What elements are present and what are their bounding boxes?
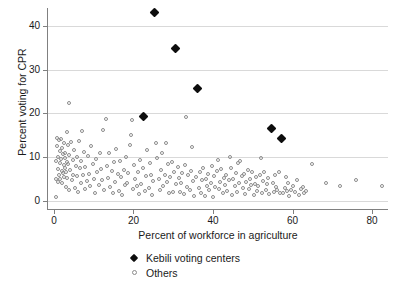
data-point-other: [160, 151, 164, 155]
data-point-other: [380, 184, 384, 188]
data-point-other: [191, 179, 195, 183]
x-tick-label: 60: [273, 216, 313, 226]
data-point-other: [197, 186, 201, 190]
data-point-other: [256, 184, 260, 188]
data-point-other: [65, 130, 69, 134]
scatter-plot-figure: 010203040 020406080 Percent voting for C…: [0, 0, 396, 285]
data-point-other: [70, 178, 74, 182]
data-point-other: [114, 147, 118, 151]
data-point-other: [198, 170, 202, 174]
data-point-other: [104, 117, 108, 121]
data-point-other: [154, 141, 158, 145]
data-point-other: [65, 176, 69, 180]
data-point-other: [91, 162, 95, 166]
data-point-other: [215, 169, 219, 173]
data-point-other: [58, 161, 62, 165]
data-point-other: [59, 137, 63, 141]
x-tick: [372, 209, 373, 214]
data-point-other: [72, 148, 76, 152]
data-point-other: [93, 191, 97, 195]
data-point-other: [157, 177, 161, 181]
data-point-other: [108, 185, 112, 189]
open-circle-icon: [128, 270, 140, 275]
data-point-other: [126, 171, 130, 175]
data-point-other: [150, 193, 154, 197]
data-point-other: [186, 173, 190, 177]
data-point-other: [216, 158, 220, 162]
data-point-other: [149, 173, 153, 177]
data-point-other: [284, 175, 288, 179]
data-point-other: [113, 180, 117, 184]
data-point-other: [267, 192, 271, 196]
data-point-kebili: [150, 7, 160, 17]
data-point-other: [118, 159, 122, 163]
gridline: [48, 113, 388, 114]
data-point-other: [135, 184, 139, 188]
data-point-other: [151, 179, 155, 183]
data-point-other: [227, 178, 231, 182]
data-point-other: [242, 172, 246, 176]
data-point-other: [244, 180, 248, 184]
data-point-other: [168, 175, 172, 179]
legend-label-others: Others: [146, 267, 178, 279]
x-tick-label: 40: [193, 216, 233, 226]
data-point-other: [211, 195, 215, 199]
data-point-other: [174, 182, 178, 186]
data-point-other: [192, 194, 196, 198]
data-point-other: [76, 190, 80, 194]
data-point-other: [172, 170, 176, 174]
data-point-other: [273, 173, 277, 177]
data-point-other: [234, 171, 238, 175]
x-tick-label: 20: [113, 216, 153, 226]
data-point-other: [225, 189, 229, 193]
data-point-other: [137, 192, 141, 196]
data-point-other: [71, 158, 75, 162]
data-point-other: [92, 177, 96, 181]
data-point-other: [119, 175, 123, 179]
data-point-other: [262, 170, 266, 174]
data-point-other: [229, 166, 233, 170]
data-point-other: [165, 180, 169, 184]
data-point-other: [98, 151, 102, 155]
data-point-other: [190, 145, 194, 149]
data-point-other: [138, 158, 142, 162]
data-point-other: [338, 184, 342, 188]
data-point-other: [188, 188, 192, 192]
data-point-other: [79, 159, 83, 163]
data-point-other: [129, 133, 133, 137]
data-point-other: [148, 161, 152, 165]
x-tick: [213, 209, 214, 214]
data-point-kebili: [266, 123, 276, 133]
data-point-other: [203, 194, 207, 198]
data-point-other: [112, 160, 116, 164]
x-axis-line: [47, 209, 388, 210]
data-point-other: [189, 169, 193, 173]
data-point-other: [147, 186, 151, 190]
data-point-other: [87, 172, 91, 176]
data-point-other: [130, 118, 134, 122]
data-point-kebili: [192, 83, 202, 93]
data-point-other: [86, 154, 90, 158]
data-point-other: [66, 162, 70, 166]
data-point-other: [89, 144, 93, 148]
data-point-other: [56, 167, 60, 171]
data-point-other: [110, 169, 114, 173]
data-point-other: [209, 181, 213, 185]
data-point-other: [247, 187, 251, 191]
data-point-other: [80, 129, 84, 133]
data-point-other: [252, 193, 256, 197]
plot-area: [48, 8, 388, 208]
data-point-other: [184, 115, 188, 119]
data-point-other: [54, 195, 58, 199]
data-point-other: [75, 174, 79, 178]
data-point-kebili: [170, 43, 180, 53]
data-point-other: [241, 186, 245, 190]
gridline: [48, 201, 388, 202]
data-point-other: [219, 167, 223, 171]
legend-item-kebili: Kebili voting centers: [128, 250, 396, 265]
data-point-other: [78, 166, 82, 170]
data-point-other: [83, 165, 87, 169]
data-point-other: [354, 178, 358, 182]
legend-item-others: Others: [128, 265, 396, 280]
legend: Kebili voting centers Others: [0, 250, 396, 280]
